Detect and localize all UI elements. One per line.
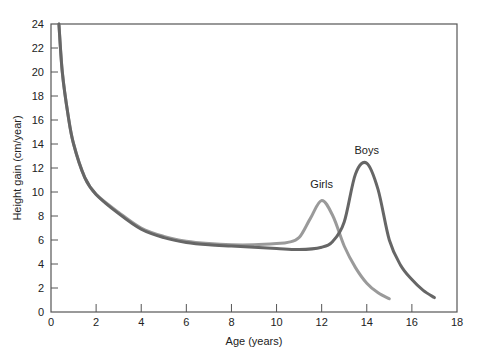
y-tick-label: 0 <box>38 306 44 318</box>
y-tick-label: 20 <box>32 66 44 78</box>
series-line-boys <box>59 24 435 298</box>
plot-frame <box>51 24 457 312</box>
x-tick-label: 8 <box>228 316 234 328</box>
x-tick-label: 14 <box>361 316 373 328</box>
x-tick-label: 0 <box>48 316 54 328</box>
x-tick-label: 12 <box>316 316 328 328</box>
series-lines <box>59 24 435 299</box>
y-tick-label: 24 <box>32 18 44 30</box>
y-tick-label: 14 <box>32 138 44 150</box>
y-tick-label: 12 <box>32 162 44 174</box>
y-axis-title: Height gain (cm/year) <box>11 115 23 220</box>
x-tick-label: 4 <box>138 316 144 328</box>
y-tick-label: 16 <box>32 114 44 126</box>
x-axis: 024681012141618 <box>48 304 463 328</box>
annotation-boys: Boys <box>355 144 380 156</box>
series-line-girls <box>59 24 389 299</box>
y-tick-label: 6 <box>38 234 44 246</box>
x-tick-label: 10 <box>270 316 282 328</box>
y-tick-label: 22 <box>32 42 44 54</box>
y-tick-label: 10 <box>32 186 44 198</box>
x-tick-label: 2 <box>93 316 99 328</box>
x-tick-label: 6 <box>183 316 189 328</box>
annotation-girls: Girls <box>310 178 333 190</box>
x-axis-title: Age (years) <box>226 335 283 347</box>
x-tick-label: 16 <box>406 316 418 328</box>
growth-velocity-chart: 024681012141618202224 024681012141618 Gi… <box>0 0 477 354</box>
y-tick-label: 2 <box>38 282 44 294</box>
y-tick-label: 18 <box>32 90 44 102</box>
y-tick-label: 4 <box>38 258 44 270</box>
x-tick-label: 18 <box>451 316 463 328</box>
y-axis: 024681012141618202224 <box>32 18 58 318</box>
plot-border <box>51 24 457 312</box>
y-tick-label: 8 <box>38 210 44 222</box>
